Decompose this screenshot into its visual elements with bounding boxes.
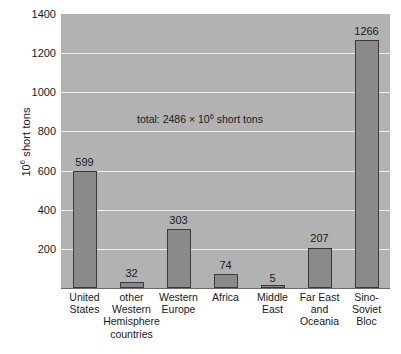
bar-value-label: 5 (269, 272, 275, 284)
x-axis-category-label: Sino-SovietBloc (341, 291, 393, 328)
gridline (61, 53, 390, 54)
x-axis-category-label-line: Sino- (341, 291, 393, 303)
total-annotation: total: 2486 × 106 short tons (137, 113, 263, 125)
x-axis-category-labels: UnitedStatesotherWesternHemispherecountr… (61, 291, 390, 354)
bar-value-label: 207 (310, 232, 328, 244)
gridline (61, 249, 390, 250)
bar-value-label: 32 (125, 267, 137, 279)
bar[interactable] (355, 40, 379, 288)
bar-value-label: 303 (169, 214, 187, 226)
bar[interactable] (308, 248, 332, 289)
y-axis-tick-label: 400 (18, 204, 56, 216)
x-axis-category-label-line: Soviet (341, 303, 393, 315)
gridline (61, 92, 390, 93)
x-axis-category-label-line: Hemisphere (93, 315, 171, 327)
y-axis-tick-label: 1400 (18, 8, 56, 20)
gridline (61, 131, 390, 132)
gridline (61, 210, 390, 211)
bar-chart: 106 short tons 200400600800100012001400 … (0, 0, 401, 354)
bar-value-label: 599 (75, 156, 93, 168)
y-axis-tick-label: 200 (18, 243, 56, 255)
plot-area: 599323037452071266total: 2486 × 106 shor… (61, 14, 390, 288)
x-axis-category-label-line: Europe (147, 303, 211, 315)
total-annotation-prefix: total: 2486 × 10 (137, 113, 210, 125)
bar-value-label: 1266 (354, 25, 378, 37)
y-axis-tick-label: 1200 (18, 47, 56, 59)
x-axis-category-label-line: Bloc (341, 315, 393, 327)
x-axis-category-label-line: countries (93, 328, 171, 340)
y-axis-tick-labels: 200400600800100012001400 (18, 0, 56, 354)
bar[interactable] (73, 171, 97, 288)
total-annotation-suffix: short tons (214, 113, 263, 125)
gridline (61, 171, 390, 172)
bar[interactable] (167, 229, 191, 288)
bar-value-label: 74 (219, 259, 231, 271)
x-axis-line (61, 288, 390, 289)
y-axis-tick-label: 600 (18, 165, 56, 177)
y-axis-tick-label: 1000 (18, 86, 56, 98)
y-axis-tick-label: 800 (18, 125, 56, 137)
bar[interactable] (214, 274, 238, 288)
